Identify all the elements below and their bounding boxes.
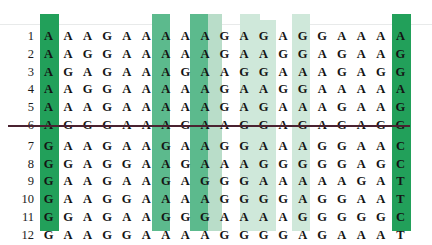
nucleotide-cell: G	[216, 98, 233, 116]
nucleotide-cell: A	[60, 98, 77, 116]
nucleotide-cell: G	[275, 155, 292, 173]
nucleotide-cell: A	[60, 226, 77, 244]
alignment-row: 11GGAGAAGGGAAAAGGGGGC	[0, 208, 432, 226]
nucleotide-cell: G	[99, 45, 116, 63]
nucleotide-cell: A	[157, 63, 174, 81]
nucleotide-cell: A	[236, 27, 253, 45]
nucleotide-cell: A	[138, 80, 155, 98]
nucleotide-cell: A	[196, 155, 213, 173]
nucleotide-cell: A	[138, 27, 155, 45]
nucleotide-cell: A	[294, 98, 311, 116]
nucleotide-cell: G	[60, 63, 77, 81]
nucleotide-cell: A	[118, 172, 135, 190]
nucleotide-cell: A	[118, 98, 135, 116]
nucleotide-cell: T	[392, 190, 409, 208]
nucleotide-cell: G	[255, 226, 272, 244]
nucleotide-cell: G	[40, 226, 57, 244]
nucleotide-cell: G	[372, 208, 389, 226]
nucleotide-cell: A	[294, 137, 311, 155]
nucleotide-cell: A	[40, 63, 57, 81]
nucleotide-cell: A	[79, 27, 96, 45]
nucleotide-cell: G	[314, 190, 331, 208]
nucleotide-cell: G	[392, 45, 409, 63]
nucleotide-cell: A	[294, 172, 311, 190]
nucleotide-cell: A	[314, 63, 331, 81]
nucleotide-cell: A	[138, 98, 155, 116]
nucleotide-cell: G	[294, 155, 311, 173]
nucleotide-cell: G	[294, 27, 311, 45]
nucleotide-cell: A	[353, 80, 370, 98]
nucleotide-cell: G	[353, 208, 370, 226]
nucleotide-cell: G	[333, 63, 350, 81]
nucleotide-cell: A	[196, 80, 213, 98]
nucleotide-cell: G	[314, 137, 331, 155]
nucleotide-cell: A	[314, 172, 331, 190]
row-number-label: 2	[8, 45, 34, 63]
nucleotide-cell: A	[138, 155, 155, 173]
nucleotide-cell: A	[353, 45, 370, 63]
nucleotide-cell: A	[157, 98, 174, 116]
nucleotide-cell: A	[118, 45, 135, 63]
nucleotide-cell: G	[216, 45, 233, 63]
nucleotide-cell: A	[79, 190, 96, 208]
nucleotide-cell: A	[275, 208, 292, 226]
row-number-label: 3	[8, 63, 34, 81]
nucleotide-cell: A	[255, 80, 272, 98]
nucleotide-cell: A	[177, 80, 194, 98]
nucleotide-cell: G	[333, 208, 350, 226]
nucleotide-cell: G	[275, 226, 292, 244]
nucleotide-cell: T	[392, 172, 409, 190]
nucleotide-cell: G	[392, 63, 409, 81]
nucleotide-cell: G	[236, 63, 253, 81]
nucleotide-cell: A	[255, 208, 272, 226]
nucleotide-cell: G	[216, 137, 233, 155]
nucleotide-cell: A	[216, 208, 233, 226]
nucleotide-cell: C	[392, 137, 409, 155]
nucleotide-cell: A	[196, 137, 213, 155]
nucleotide-cell: A	[333, 80, 350, 98]
nucleotide-cell: G	[333, 98, 350, 116]
nucleotide-cell: A	[353, 27, 370, 45]
nucleotide-cell: G	[216, 190, 233, 208]
nucleotide-cell: A	[118, 80, 135, 98]
nucleotide-cell: A	[177, 137, 194, 155]
nucleotide-cell: G	[236, 137, 253, 155]
nucleotide-cell: A	[79, 208, 96, 226]
nucleotide-cell: G	[314, 27, 331, 45]
nucleotide-cell: G	[294, 80, 311, 98]
nucleotide-cell: A	[118, 27, 135, 45]
nucleotide-cell: G	[99, 226, 116, 244]
nucleotide-cell: A	[196, 98, 213, 116]
nucleotide-cell: G	[99, 172, 116, 190]
nucleotide-cell: A	[216, 63, 233, 81]
nucleotide-cell: A	[216, 155, 233, 173]
alignment-row: 5AAAGAAAAAGAGAAAGAAG	[0, 98, 432, 116]
nucleotide-cell: G	[216, 27, 233, 45]
nucleotide-cell: A	[353, 137, 370, 155]
alignment-row: 7GAAGAAGAAGGAAAGGAAC	[0, 137, 432, 155]
nucleotide-cell: G	[157, 208, 174, 226]
nucleotide-cell: A	[138, 137, 155, 155]
nucleotide-cell: A	[236, 98, 253, 116]
nucleotide-cell: G	[216, 226, 233, 244]
nucleotide-cell: G	[40, 172, 57, 190]
nucleotide-cell: A	[196, 63, 213, 81]
nucleotide-cell: A	[372, 98, 389, 116]
alignment-row: 4AAGGAAAAAGAAGGAAAAA	[0, 80, 432, 98]
nucleotide-cell: G	[255, 155, 272, 173]
nucleotide-cell: A	[333, 226, 350, 244]
nucleotide-cell: A	[275, 27, 292, 45]
nucleotide-cell: A	[79, 155, 96, 173]
nucleotide-cell: G	[99, 80, 116, 98]
nucleotide-cell: A	[138, 226, 155, 244]
nucleotide-cell: G	[275, 45, 292, 63]
nucleotide-cell: G	[40, 190, 57, 208]
nucleotide-cell: A	[333, 27, 350, 45]
row-number-label: 7	[8, 137, 34, 155]
alignment-row: 1AAAGAAAAAGAGAGGAAAA	[0, 27, 432, 45]
alignment-row: 12GAAGGAAAAGGGGAGAAAT	[0, 226, 432, 244]
alignment-row: 8GGAGGAAGAAAGGGGGAGC	[0, 155, 432, 173]
alignment-row: 3AGAGAAAGAAGGAAAGAGG	[0, 63, 432, 81]
nucleotide-cell: A	[177, 172, 194, 190]
nucleotide-cell: A	[255, 45, 272, 63]
